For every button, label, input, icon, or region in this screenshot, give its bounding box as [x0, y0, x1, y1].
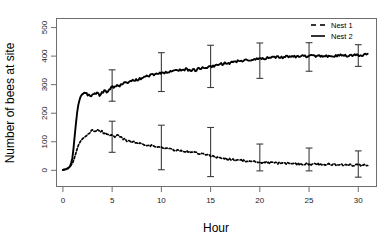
x-tick-label: 5	[110, 196, 115, 205]
y-tick-label: 500	[40, 20, 49, 34]
x-tick-label: 10	[157, 196, 166, 205]
x-tick-label: 30	[354, 196, 363, 205]
y-tick-label: 200	[40, 106, 49, 120]
legend-label-nest-2: Nest 2	[331, 32, 353, 41]
y-tick-label: 300	[40, 77, 49, 91]
x-tick-label: 20	[255, 196, 264, 205]
y-axis-title: Number of bees at site	[3, 42, 17, 163]
x-tick-label: 0	[61, 196, 66, 205]
y-tick-label: 100	[40, 135, 49, 149]
legend-label-nest-1: Nest 1	[331, 21, 353, 30]
chart-figure: 0100200300400500 051015202530 Hour Numbe…	[0, 0, 391, 241]
x-axis-title: Hour	[203, 221, 229, 235]
y-tick-label: 400	[40, 49, 49, 63]
y-tick-label: 0	[40, 168, 49, 173]
bee-count-line-chart: 0100200300400500 051015202530 Hour Numbe…	[0, 0, 391, 241]
x-tick-label: 15	[206, 196, 215, 205]
x-tick-label: 25	[305, 196, 314, 205]
